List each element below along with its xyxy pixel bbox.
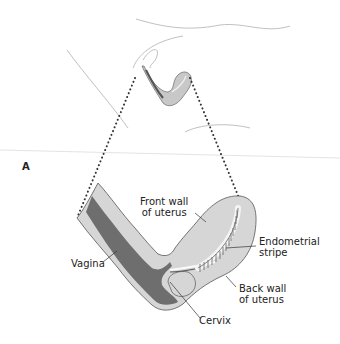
label-front-wall-line2: of uterus — [140, 207, 188, 218]
label-endometrial-line1: Endometrial — [259, 236, 320, 247]
label-vagina: Vagina — [71, 258, 105, 269]
body-outline — [0, 19, 340, 158]
label-back-wall: Back wall of uterus — [239, 283, 286, 305]
label-back-wall-line1: Back wall — [239, 283, 286, 294]
overview-organ — [142, 66, 191, 106]
anatomy-diagram: A Front wall of uterus Endometrial strip… — [0, 0, 340, 344]
label-cervix: Cervix — [199, 315, 231, 326]
label-back-wall-line2: of uterus — [239, 294, 286, 305]
label-endometrial-stripe: Endometrial stripe — [259, 236, 320, 258]
diagram-graphic — [0, 0, 340, 344]
label-front-wall-line1: Front wall — [140, 196, 188, 207]
label-endometrial-line2: stripe — [259, 247, 320, 258]
panel-label: A — [22, 161, 30, 172]
label-front-wall: Front wall of uterus — [140, 196, 188, 218]
